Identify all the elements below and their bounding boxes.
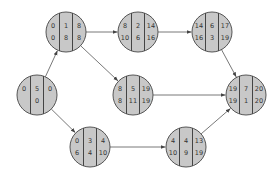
node-value-bottom-1: 1 bbox=[244, 97, 248, 105]
node-value-top-2: 0 bbox=[48, 85, 52, 93]
node-value-top-2: 17 bbox=[221, 22, 229, 30]
node-value-top-2: 4 bbox=[101, 137, 105, 145]
node-n8: 441310919 bbox=[166, 127, 206, 167]
node-value-bottom-0: 0 bbox=[51, 34, 55, 42]
node-circle bbox=[113, 75, 153, 115]
node-value-bottom-2: 20 bbox=[255, 97, 263, 105]
node-value-top-1: 3 bbox=[88, 137, 92, 145]
node-value-bottom-0: 19 bbox=[229, 97, 237, 105]
node-n5: 851981119 bbox=[113, 75, 153, 115]
node-value-bottom-2: 16 bbox=[147, 34, 155, 42]
node-value-top-1: 5 bbox=[35, 85, 39, 93]
node-value-bottom-0: 10 bbox=[169, 149, 177, 157]
node-value-top-2: 13 bbox=[195, 137, 203, 145]
node-circle bbox=[226, 75, 266, 115]
edge-arrow-n2-n5 bbox=[81, 46, 118, 81]
edge-arrow-n1-n2 bbox=[45, 51, 57, 77]
nodes-layer: 0500018088821410616146171631985198111919… bbox=[17, 12, 266, 167]
node-value-top-0: 0 bbox=[75, 137, 79, 145]
node-value-top-2: 20 bbox=[255, 85, 263, 93]
node-value-bottom-2: 19 bbox=[195, 149, 203, 157]
node-circle bbox=[46, 12, 86, 52]
node-value-bottom-1: 9 bbox=[184, 149, 188, 157]
node-value-bottom-0: 8 bbox=[118, 97, 122, 105]
node-circle bbox=[192, 12, 232, 52]
node-value-bottom-1: 0 bbox=[35, 97, 39, 105]
node-value-top-1: 4 bbox=[184, 137, 188, 145]
node-value-top-0: 14 bbox=[195, 22, 203, 30]
node-n1: 0500 bbox=[17, 75, 57, 115]
node-value-top-2: 8 bbox=[77, 22, 81, 30]
node-value-bottom-1: 3 bbox=[210, 34, 214, 42]
node-value-top-0: 0 bbox=[51, 22, 55, 30]
node-circle bbox=[118, 12, 158, 52]
node-value-bottom-2: 19 bbox=[221, 34, 229, 42]
node-value-top-1: 5 bbox=[131, 85, 135, 93]
node-value-bottom-2: 19 bbox=[142, 97, 150, 105]
node-value-top-0: 8 bbox=[118, 85, 122, 93]
node-value-bottom-2: 8 bbox=[77, 34, 81, 42]
node-value-top-0: 0 bbox=[22, 85, 26, 93]
edge-arrow-n4-n6 bbox=[221, 50, 236, 77]
node-value-top-1: 1 bbox=[64, 22, 68, 30]
node-value-bottom-0: 6 bbox=[75, 149, 79, 157]
node-value-top-1: 7 bbox=[244, 85, 248, 93]
node-n2: 018088 bbox=[46, 12, 86, 52]
node-value-top-0: 19 bbox=[229, 85, 237, 93]
node-value-bottom-2: 10 bbox=[99, 149, 107, 157]
node-value-bottom-1: 4 bbox=[88, 149, 92, 157]
node-circle bbox=[70, 127, 110, 167]
node-value-top-0: 8 bbox=[123, 22, 127, 30]
node-value-top-1: 2 bbox=[136, 22, 140, 30]
node-n4: 1461716319 bbox=[192, 12, 232, 52]
node-value-bottom-1: 11 bbox=[129, 97, 137, 105]
node-value-bottom-1: 8 bbox=[64, 34, 68, 42]
node-circle bbox=[166, 127, 206, 167]
node-value-top-0: 4 bbox=[171, 137, 175, 145]
node-value-top-2: 14 bbox=[147, 22, 155, 30]
node-n7: 0346410 bbox=[70, 127, 110, 167]
edge-arrow-n1-n7 bbox=[51, 109, 75, 133]
node-value-bottom-0: 16 bbox=[195, 34, 203, 42]
node-n3: 821410616 bbox=[118, 12, 158, 52]
edge-arrow-n8-n6 bbox=[201, 108, 230, 133]
node-value-bottom-0: 10 bbox=[121, 34, 129, 42]
network-diagram: 0500018088821410616146171631985198111919… bbox=[0, 0, 280, 179]
node-value-top-1: 6 bbox=[210, 22, 214, 30]
node-value-bottom-1: 6 bbox=[136, 34, 140, 42]
node-circle bbox=[17, 75, 57, 115]
node-n6: 1972019120 bbox=[226, 75, 266, 115]
node-value-top-2: 19 bbox=[142, 85, 150, 93]
